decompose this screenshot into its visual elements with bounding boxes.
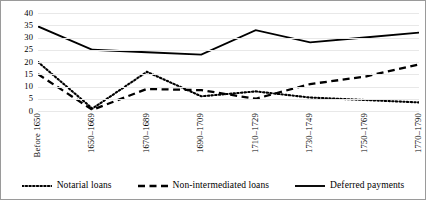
x-axis-tick-label: 1690–1709 — [196, 113, 205, 153]
x-axis-tick-label: 1710–1729 — [251, 113, 260, 153]
gridline — [38, 111, 419, 112]
legend-item[interactable]: Notarial loans — [22, 180, 112, 190]
legend-label: Non-intermediated loans — [173, 180, 269, 190]
y-axis-tick-label: 20 — [9, 58, 33, 67]
legend-label: Notarial loans — [57, 180, 112, 190]
series-line — [38, 62, 419, 109]
legend-item[interactable]: Deferred payments — [295, 180, 404, 190]
chart-legend: Notarial loansNon-intermediated loansDef… — [1, 177, 425, 193]
y-axis-tick-label: 40 — [9, 9, 33, 18]
x-axis-tick-label: 1670–1689 — [142, 113, 151, 153]
gridline — [38, 38, 419, 39]
y-axis-tick-label: 30 — [9, 33, 33, 42]
y-axis-tick-label: 10 — [9, 82, 33, 91]
x-axis: Before 16501650–16691670–16891690–170917… — [38, 113, 419, 169]
gridline — [38, 99, 419, 100]
gridline — [38, 74, 419, 75]
y-axis-tick-label: 35 — [9, 21, 33, 30]
x-axis-tick-label: 1650–1669 — [87, 113, 96, 153]
gridline — [38, 50, 419, 51]
y-axis-tick-label: 0 — [9, 107, 33, 116]
gridline — [38, 62, 419, 63]
y-axis-tick-label: 15 — [9, 70, 33, 79]
x-axis-tick-label: Before 1650 — [33, 113, 42, 157]
y-axis-tick-label: 5 — [9, 94, 33, 103]
x-axis-tick-label: 1770–1790 — [414, 113, 423, 153]
y-axis: 0510152025303540 — [6, 13, 33, 111]
gridline — [38, 87, 419, 88]
y-axis-tick-label: 25 — [9, 45, 33, 54]
gridline — [38, 13, 419, 14]
legend-swatch-dotted — [22, 183, 52, 188]
gridline — [38, 25, 419, 26]
x-axis-tick-label: 1730–1749 — [305, 113, 314, 153]
legend-label: Deferred payments — [330, 180, 404, 190]
legend-swatch-dashed — [138, 183, 168, 188]
x-axis-tick-label: 1750–1769 — [360, 113, 369, 153]
legend-swatch-solid — [295, 183, 325, 188]
legend-item[interactable]: Non-intermediated loans — [138, 180, 269, 190]
plot-area — [38, 13, 419, 111]
chart-figure: 0510152025303540 Before 16501650–1669167… — [0, 0, 426, 200]
